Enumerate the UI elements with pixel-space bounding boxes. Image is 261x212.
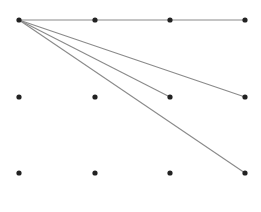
- edge-r0c0-r1c2: [19, 20, 170, 97]
- dot-grid-diagram: [0, 0, 261, 212]
- edge-layer: [19, 20, 245, 173]
- node-r0c0: [16, 17, 21, 22]
- node-r1c3: [242, 94, 247, 99]
- node-r0c1: [92, 17, 97, 22]
- node-r2c2: [167, 170, 172, 175]
- edge-r0c0-r2c3: [19, 20, 245, 173]
- node-r1c1: [92, 94, 97, 99]
- node-r2c3: [242, 170, 247, 175]
- edge-r0c0-r1c3: [19, 20, 245, 97]
- node-r0c2: [167, 17, 172, 22]
- node-r1c0: [16, 94, 21, 99]
- node-r2c0: [16, 170, 21, 175]
- node-r2c1: [92, 170, 97, 175]
- node-r1c2: [167, 94, 172, 99]
- node-r0c3: [242, 17, 247, 22]
